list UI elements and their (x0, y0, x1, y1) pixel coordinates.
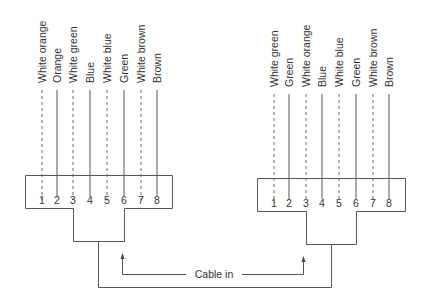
right-wire-label-2: Green (283, 58, 295, 87)
right-wire-label-7: White brown (367, 28, 379, 87)
right-pin-7: 7 (370, 197, 376, 209)
right-pin-1: 1 (271, 197, 277, 209)
cable-line (99, 242, 332, 288)
left-wire-label-1: White orange (36, 20, 48, 83)
arrow-up-icon (302, 256, 306, 262)
left-pin-6: 6 (121, 194, 127, 206)
left-wire-label-4: Blue (84, 62, 96, 83)
right-wire-label-8: Brown (383, 57, 395, 87)
right-connector-body (258, 179, 406, 245)
right-wire-label-1: White green (268, 30, 280, 87)
right-pin-2: 2 (286, 197, 292, 209)
left-pin-5: 5 (104, 194, 110, 206)
right-connector: White green Green White orange Blue Whit… (258, 24, 406, 244)
cable-in-label: Cable in (195, 268, 234, 280)
right-pin-3: 3 (303, 197, 309, 209)
cable-in-left-leader (123, 256, 187, 275)
left-pin-7: 7 (138, 194, 144, 206)
right-pin-8: 8 (386, 197, 392, 209)
left-wire-label-3: White green (67, 26, 79, 83)
left-wire-label-7: White brown (135, 24, 147, 83)
left-pin-8: 8 (154, 194, 160, 206)
right-wire-label-4: Blue (316, 66, 328, 87)
left-pin-2: 2 (54, 194, 60, 206)
right-wire-label-5: White blue (333, 37, 345, 87)
cable-in-indicator: Cable in (121, 253, 306, 280)
left-wire-label-5: White blue (101, 33, 113, 83)
left-pin-1: 1 (39, 194, 45, 206)
left-wire-label-8: Brown (151, 53, 163, 83)
left-wire-label-6: Green (118, 54, 130, 83)
right-wire-label-3: White orange (300, 24, 312, 87)
left-connector: White orange Orange White green Blue Whi… (26, 20, 173, 241)
left-pin-3: 3 (70, 194, 76, 206)
left-wire-label-2: Orange (51, 48, 63, 83)
right-wire-label-6: Green (350, 58, 362, 87)
left-connector-body (26, 176, 173, 242)
cable-in-right-leader (242, 259, 304, 275)
crossover-cable-diagram: White orange Orange White green Blue Whi… (0, 0, 428, 305)
arrow-up-icon (121, 253, 125, 259)
left-pin-4: 4 (87, 194, 93, 206)
right-pin-5: 5 (336, 197, 342, 209)
right-pin-4: 4 (319, 197, 325, 209)
right-pin-6: 6 (353, 197, 359, 209)
